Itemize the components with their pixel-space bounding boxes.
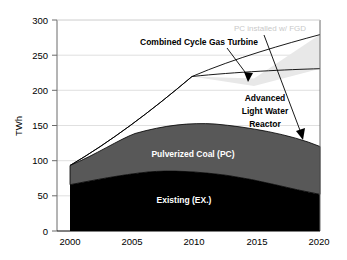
energy-mix-area-chart: 300 250 200 150 100 50 0 TWh 2000 2005 2… <box>0 0 347 260</box>
annotation-fgd-label: PC installed w/ FGD <box>234 24 306 33</box>
y-axis-ticks <box>52 20 57 231</box>
x-tick-2010: 2010 <box>183 236 204 247</box>
annotation-alwr-line1: Advanced <box>245 93 286 103</box>
x-tick-2000: 2000 <box>59 236 80 247</box>
y-tick-0: 0 <box>43 226 48 237</box>
y-tick-300: 300 <box>32 15 48 26</box>
y-axis-title: TWh <box>13 116 24 136</box>
y-tick-250: 250 <box>32 50 48 61</box>
annotation-alwr-line3: Reactor <box>249 119 281 129</box>
y-tick-150: 150 <box>32 120 48 131</box>
chart-container: 300 250 200 150 100 50 0 TWh 2000 2005 2… <box>0 0 347 260</box>
y-tick-50: 50 <box>37 190 48 201</box>
annotation-ccgt-label: Combined Cycle Gas Turbine <box>140 37 258 47</box>
annotation-alwr-line2: Light Water <box>242 106 289 116</box>
x-tick-2005: 2005 <box>121 236 142 247</box>
y-tick-100: 100 <box>32 155 48 166</box>
band-label-pulverized-coal: Pulverized Coal (PC) <box>151 149 234 159</box>
x-tick-2020: 2020 <box>308 236 329 247</box>
y-tick-200: 200 <box>32 85 48 96</box>
x-tick-2015: 2015 <box>246 236 267 247</box>
band-label-existing: Existing (EX.) <box>157 195 212 205</box>
